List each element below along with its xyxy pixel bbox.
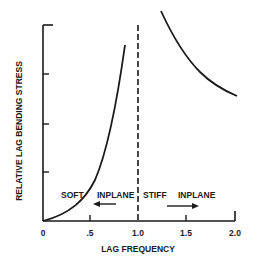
y-axis-title: RELATIVE LAG BENDING STRESS bbox=[14, 61, 24, 201]
right-arrow-head bbox=[192, 203, 199, 209]
x-tick-label: 1.5 bbox=[180, 228, 192, 238]
chart: SOFT INPLANE STIFF INPLANE 0 .5 1.0 1.5 … bbox=[0, 0, 257, 257]
left-arrow-head bbox=[93, 201, 100, 207]
soft-inplane-label: INPLANE bbox=[97, 190, 135, 200]
soft-label: SOFT bbox=[61, 190, 84, 200]
x-tick-label: 1.0 bbox=[132, 228, 144, 238]
stiff-inplane-label: INPLANE bbox=[178, 190, 216, 200]
stiff-label: STIFF bbox=[143, 190, 167, 200]
stiff-inplane-curve bbox=[161, 11, 237, 96]
x-axis-title: LAG FREQUENCY bbox=[101, 244, 175, 254]
x-tick-label: 0 bbox=[41, 228, 46, 238]
x-tick-label: .5 bbox=[86, 228, 93, 238]
x-tick-label: 2.0 bbox=[229, 228, 241, 238]
